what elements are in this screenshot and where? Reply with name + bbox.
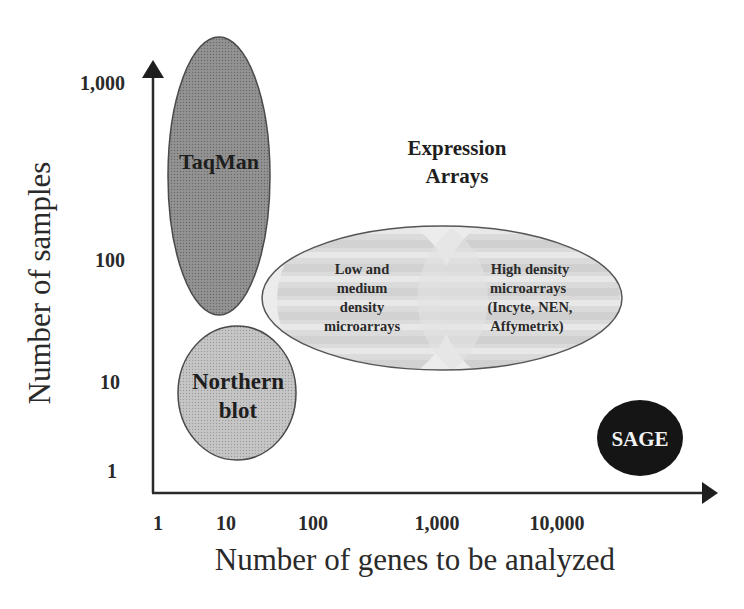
taqman-ellipse: [168, 37, 270, 315]
y-axis-title: Number of samples: [22, 162, 57, 405]
region-sage: SAGE: [597, 400, 683, 476]
region-taqman: TaqMan: [168, 37, 270, 315]
sage-label: SAGE: [611, 427, 668, 451]
svg-text:High density: High density: [491, 261, 570, 277]
expression-arrays-line2: Arrays: [426, 164, 489, 188]
x-tick-10: 10: [216, 512, 236, 534]
taqman-label: TaqMan: [179, 149, 259, 174]
x-tick-100: 100: [298, 512, 328, 534]
x-tick-10000: 10,000: [530, 512, 585, 534]
svg-text:medium: medium: [337, 280, 388, 296]
y-tick-1: 1: [107, 460, 117, 482]
x-tick-1000: 1,000: [415, 512, 460, 534]
region-northern-blot: Northern blot: [178, 326, 296, 460]
x-axis-title: Number of genes to be analyzed: [215, 542, 616, 577]
svg-text:(Incyte, NEN,: (Incyte, NEN,: [488, 299, 573, 316]
northern-label-line1: Northern: [192, 369, 284, 394]
expression-arrays-heading: Expression Arrays: [408, 136, 507, 188]
y-axis-arrow-icon: [142, 60, 164, 78]
svg-text:microarrays: microarrays: [324, 318, 401, 334]
svg-text:Number of samples: Number of samples: [22, 162, 57, 405]
svg-text:microarrays: microarrays: [490, 280, 567, 296]
region-expression-arrays: Low and medium density microarrays High …: [262, 210, 622, 390]
x-tick-1: 1: [153, 512, 163, 534]
y-tick-labels: 1,000 100 10 1: [80, 72, 125, 482]
y-tick-10: 10: [100, 371, 120, 393]
y-tick-100: 100: [95, 249, 125, 271]
y-tick-1000: 1,000: [80, 72, 125, 94]
expression-arrays-line1: Expression: [408, 136, 507, 160]
x-tick-labels: 1 10 100 1,000 10,000: [153, 512, 585, 534]
x-axis-arrow-icon: [702, 482, 718, 504]
svg-text:density: density: [340, 299, 385, 315]
svg-text:Affymetrix): Affymetrix): [490, 318, 563, 335]
technology-landscape-diagram: Number of samples 1,000 100 10 1 1 10 10…: [0, 0, 744, 609]
svg-text:Low and: Low and: [335, 261, 389, 277]
northern-label-line2: blot: [219, 398, 258, 423]
